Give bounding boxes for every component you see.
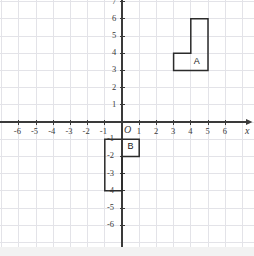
- x-tick-label: 4: [188, 127, 192, 136]
- y-tick-label: -1: [107, 134, 114, 143]
- y-tick-label: 3: [112, 65, 116, 74]
- bottom-strip: [0, 247, 254, 256]
- x-tick-label: -4: [48, 127, 55, 136]
- x-tick-label: 2: [154, 127, 158, 136]
- y-tick-label: 5: [112, 31, 116, 40]
- coordinate-plane-figure: -6-5-4-3-2-1123456654321-1-2-3-4-5-67OxA…: [0, 0, 254, 256]
- x-tick-label: -3: [65, 127, 72, 136]
- x-tick-label: -6: [14, 127, 21, 136]
- y-tick-label: 1: [112, 100, 116, 109]
- x-tick-label: -5: [31, 127, 38, 136]
- shape-label-b: B: [128, 142, 134, 151]
- y-tick-label: -3: [107, 169, 114, 178]
- x-tick-label: 6: [223, 127, 227, 136]
- x-tick-label: 3: [171, 127, 175, 136]
- y-tick-label: -4: [107, 186, 114, 195]
- y-tick-label: -2: [107, 151, 114, 160]
- x-axis-label: x: [245, 126, 249, 135]
- x-tick-label: -1: [100, 127, 107, 136]
- y-tick-label: 6: [112, 14, 116, 23]
- y-tick-label: -6: [107, 220, 114, 229]
- x-tick-label: 1: [137, 127, 141, 136]
- x-tick-label: 5: [206, 127, 210, 136]
- y-tick-label-clipped: 7: [112, 0, 116, 6]
- shape-label-a: A: [194, 57, 200, 66]
- y-tick-label: -5: [107, 203, 114, 212]
- origin-label: O: [124, 125, 131, 134]
- y-tick-label: 4: [112, 48, 116, 57]
- y-tick-label: 2: [112, 83, 116, 92]
- x-tick-label: -2: [83, 127, 90, 136]
